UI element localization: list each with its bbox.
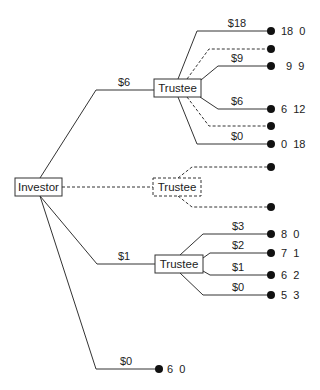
edge-investor-0 (40, 196, 159, 369)
edge-label-bottom-3: $3 (232, 220, 244, 232)
terminal-dot (155, 365, 163, 373)
edge-top-dashed-2 (187, 97, 270, 126)
edge-top-18 (178, 31, 270, 79)
payoff-top-18: 18 0 (281, 25, 305, 37)
edge-label-top-9: $9 (231, 52, 243, 64)
payoff-bottom-2: 7 1 (281, 247, 299, 259)
edge-top-9 (201, 66, 270, 80)
terminal-dot (267, 45, 275, 53)
edge-investor-6 (40, 90, 154, 178)
payoff-investor-0: 6 0 (167, 363, 185, 375)
edge-label-investor-6: $6 (118, 76, 130, 88)
edge-bottom-3 (180, 234, 270, 255)
edge-bottom-0 (180, 273, 270, 295)
edge-mid-up (178, 167, 270, 178)
edge-label-investor-0: $0 (120, 355, 132, 367)
edge-bottom-2 (203, 253, 270, 258)
payoff-bottom-0: 5 3 (281, 289, 299, 301)
payoff-top-0: 0 18 (281, 138, 305, 150)
game-tree-diagram: Investor Trustee Trustee Trustee $6 $1 $… (0, 0, 320, 390)
edge-label-bottom-2: $2 (232, 239, 244, 251)
payoff-bottom-3: 8 0 (281, 228, 299, 240)
terminal-dot (267, 62, 275, 70)
trustee-middle-node-label: Trustee (158, 181, 197, 193)
terminal-dot (267, 230, 275, 238)
payoff-bottom-1: 6 2 (281, 269, 299, 281)
terminal-dot (267, 163, 275, 171)
edge-label-top-0: $0 (231, 130, 243, 142)
edge-top-dashed-1 (187, 49, 270, 79)
investor-node-label: Investor (18, 181, 59, 193)
edge-label-top-6: $6 (231, 95, 243, 107)
terminal-dot (267, 122, 275, 130)
terminal-dot (267, 105, 275, 113)
terminal-dot (267, 291, 275, 299)
edge-label-investor-1: $1 (118, 250, 130, 262)
edge-label-top-18: $18 (228, 17, 246, 29)
terminal-dot (267, 140, 275, 148)
edge-investor-1 (40, 196, 155, 264)
payoff-top-9: 9 9 (286, 60, 304, 72)
trustee-bottom-node-label: Trustee (160, 258, 199, 270)
edge-top-0 (178, 97, 270, 144)
terminal-dot (267, 203, 275, 211)
terminal-dot (267, 271, 275, 279)
trustee-top-node-label: Trustee (158, 82, 197, 94)
edge-label-bottom-0: $0 (232, 281, 244, 293)
payoff-top-6: 6 12 (281, 103, 305, 115)
terminal-dot (267, 27, 275, 35)
edge-label-bottom-1: $1 (232, 261, 244, 273)
edge-mid-down (178, 196, 270, 207)
terminal-dot (267, 249, 275, 257)
